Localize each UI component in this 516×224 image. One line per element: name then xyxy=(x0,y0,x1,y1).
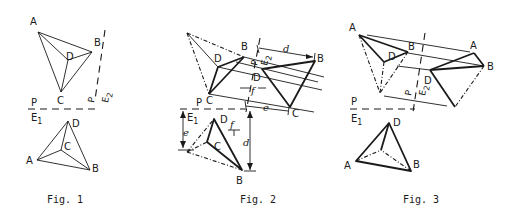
fig1-caption: Fig. 1 xyxy=(47,194,83,205)
fig1-upper-tetrahedron xyxy=(38,32,92,92)
fig1-lower-label-d: D xyxy=(72,118,80,129)
fig3-axis-label-p: P xyxy=(351,96,357,107)
fig1-lower-label-c: C xyxy=(64,141,71,152)
fig2-caption: Fig. 2 xyxy=(240,194,276,205)
descriptive-geometry-diagram: A B C D P E1 P E2 D C A B Fig. 1 xyxy=(0,0,516,224)
fig3-caption: Fig. 3 xyxy=(403,194,439,205)
fig1-lower-label-b: B xyxy=(92,163,99,174)
fig3-lower-tetrahedron xyxy=(356,123,411,171)
fig3-lower-label-b: B xyxy=(413,159,420,170)
fig2-side-label-e2: E2 xyxy=(259,54,274,67)
fig2-lower-label-b: B xyxy=(236,175,243,186)
fig2-dim-f-lower: f xyxy=(229,119,236,130)
figure-2: B D C P E2 d B D C xyxy=(178,33,324,205)
fig2-aux-label-c: C xyxy=(292,108,299,119)
fig2-dim-e-lower: e xyxy=(183,127,189,138)
fig1-upper-label-d: D xyxy=(66,51,74,62)
fig3-upper-label-d: D xyxy=(388,51,396,62)
fig2-upper-label-b: B xyxy=(241,41,248,52)
fig2-dim-e-top: e xyxy=(263,102,269,113)
fig1-axis-label-e1: E1 xyxy=(31,112,42,126)
fig2-upper-label-c: C xyxy=(206,95,213,106)
fig2-axis-label-e1: E1 xyxy=(187,112,198,126)
fig2-aux-label-b: B xyxy=(317,53,324,64)
fig2-axis-label-p: P xyxy=(196,97,202,108)
fig3-lower-label-a: A xyxy=(344,160,351,171)
fig2-dimension-f-lower xyxy=(228,130,240,136)
fig3-aux-label-b: B xyxy=(487,61,494,72)
fig1-lower-label-a: A xyxy=(26,155,33,166)
fig2-lower-label-d: D xyxy=(220,114,228,125)
fig3-lower-label-d: D xyxy=(393,117,401,128)
fig2-dim-f-top: f xyxy=(250,85,257,96)
fig3-side-label-p: P xyxy=(403,89,414,97)
figure-1: A B C D P E1 P E2 D C A B Fig. 1 xyxy=(26,16,115,205)
fig2-upper-label-d: D xyxy=(214,53,222,64)
fig3-axis-label-e1: E1 xyxy=(351,113,362,127)
fig1-side-label-e2: E2 xyxy=(100,91,115,104)
fig3-upper-tetrahedron xyxy=(359,35,408,93)
fig3-aux-label-d: D xyxy=(424,75,432,86)
fig1-upper-label-c: C xyxy=(57,95,64,106)
fig2-dim-d-lower: d xyxy=(243,137,249,148)
fig2-lower-label-c: C xyxy=(214,141,221,152)
fig1-upper-label-a: A xyxy=(30,16,37,27)
fig2-dim-d-top: d xyxy=(283,43,289,54)
fig2-aux-label-d: D xyxy=(253,72,261,83)
fig1-axis-label-p: P xyxy=(31,97,37,108)
fig3-upper-label-a: A xyxy=(349,22,356,33)
fig1-upper-label-b: B xyxy=(94,37,101,48)
fig1-side-label-p: P xyxy=(86,96,97,104)
figure-3: A B D P E2 A B D P E1 xyxy=(344,22,494,205)
fig3-aux-label-a: A xyxy=(470,40,477,51)
